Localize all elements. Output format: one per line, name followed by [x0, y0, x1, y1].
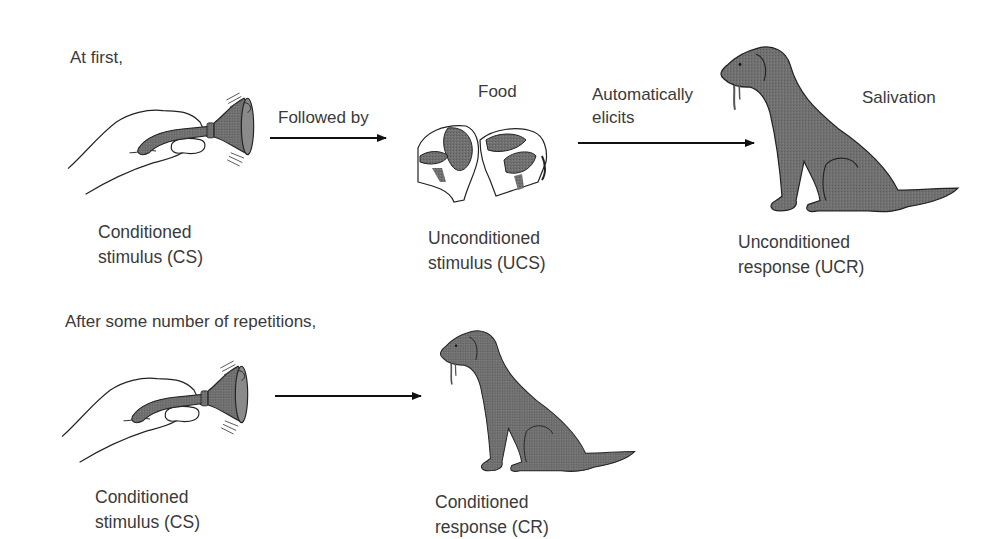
cr-label: Conditioned response (CR): [435, 490, 549, 539]
food-icon: [414, 120, 564, 205]
arrow2-label-line2: elicits: [592, 106, 635, 130]
salivation-label: Salivation: [862, 86, 936, 110]
food-label: Food: [478, 80, 517, 104]
arrow2-label-line1: Automatically: [592, 83, 693, 107]
cs-label-row2: Conditioned stimulus (CS): [95, 485, 200, 535]
row1-intro: At first,: [70, 46, 123, 70]
cs-label-row1: Conditioned stimulus (CS): [98, 220, 203, 270]
bell-icon: [60, 360, 280, 490]
bell-icon: [66, 92, 286, 222]
ucs-label: Unconditioned stimulus (UCS): [428, 226, 546, 276]
dog-icon: [438, 330, 638, 480]
ucr-label: Unconditioned response (UCR): [738, 230, 864, 280]
arrow1-label: Followed by: [278, 106, 369, 130]
dog-icon: [718, 46, 968, 216]
arrow-icon: [273, 390, 423, 402]
row2-intro: After some number of repetitions,: [65, 310, 316, 334]
arrow-icon: [268, 132, 388, 144]
